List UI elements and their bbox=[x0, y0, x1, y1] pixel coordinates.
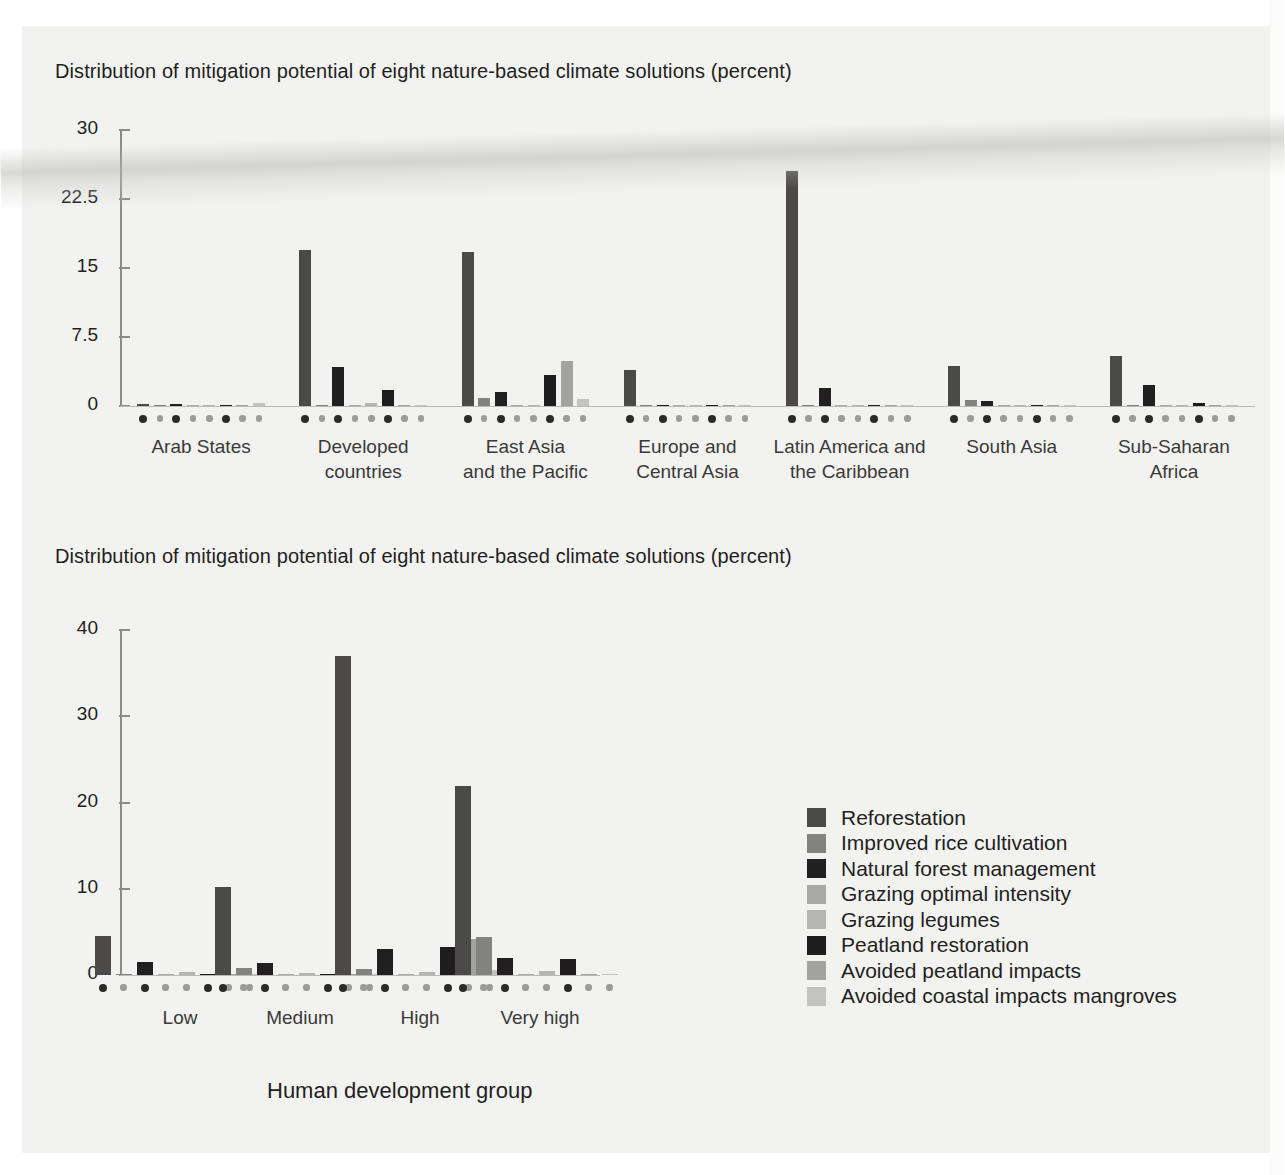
bar-peatland-restoration[interactable] bbox=[868, 405, 880, 406]
bar-reforestation[interactable] bbox=[786, 171, 798, 406]
bar-natural-forest-management[interactable] bbox=[257, 963, 273, 975]
bar-avoided-peatland-impacts[interactable] bbox=[581, 974, 597, 975]
bar-group bbox=[480, 630, 600, 975]
bar-improved-rice-cultivation[interactable] bbox=[476, 937, 492, 975]
bar-grazing-optimal-intensity[interactable] bbox=[278, 974, 294, 975]
bar-reforestation[interactable] bbox=[137, 404, 149, 406]
bar-natural-forest-management[interactable] bbox=[657, 405, 669, 406]
bar-grazing-optimal-intensity[interactable] bbox=[398, 974, 414, 975]
bar-reforestation[interactable] bbox=[462, 252, 474, 406]
bar-natural-forest-management[interactable] bbox=[170, 404, 182, 406]
legend-item-label: Grazing optimal intensity bbox=[841, 882, 1071, 906]
bar-natural-forest-management[interactable] bbox=[377, 949, 393, 975]
chart-by-hdi-group: 010203040LowMediumHighVery high bbox=[120, 630, 600, 975]
legend-item-improved-rice-cultivation[interactable]: Improved rice cultivation bbox=[807, 831, 1177, 857]
bar-improved-rice-cultivation[interactable] bbox=[802, 405, 814, 406]
bar-grazing-legumes[interactable] bbox=[539, 971, 555, 975]
bar-improved-rice-cultivation[interactable] bbox=[1127, 405, 1139, 406]
bar-improved-rice-cultivation[interactable] bbox=[236, 968, 252, 975]
bar-avoided-peatland-impacts[interactable] bbox=[1209, 405, 1221, 406]
bar-grazing-optimal-intensity[interactable] bbox=[511, 405, 523, 406]
bar-avoided-coastal-impacts-mangroves[interactable] bbox=[901, 405, 913, 406]
bar-peatland-restoration[interactable] bbox=[1031, 405, 1043, 406]
bar-grazing-legumes[interactable] bbox=[1014, 405, 1026, 406]
bar-improved-rice-cultivation[interactable] bbox=[478, 398, 490, 406]
series-marker-dot bbox=[246, 984, 253, 991]
bar-natural-forest-management[interactable] bbox=[332, 367, 344, 406]
bar-grazing-legumes[interactable] bbox=[690, 405, 702, 406]
y-axis-tick-label: 40 bbox=[8, 617, 98, 639]
bar-improved-rice-cultivation[interactable] bbox=[640, 405, 652, 406]
bar-avoided-coastal-impacts-mangroves[interactable] bbox=[1064, 405, 1076, 406]
bar-natural-forest-management[interactable] bbox=[819, 388, 831, 406]
bar-grazing-legumes[interactable] bbox=[419, 972, 435, 975]
bar-grazing-legumes[interactable] bbox=[299, 973, 315, 975]
bar-peatland-restoration[interactable] bbox=[1193, 403, 1205, 406]
bar-reforestation[interactable] bbox=[624, 370, 636, 406]
legend-item-peatland-restoration[interactable]: Peatland restoration bbox=[807, 933, 1177, 959]
legend-item-avoided-peatland-impacts[interactable]: Avoided peatland impacts bbox=[807, 958, 1177, 984]
legend-item-reforestation[interactable]: Reforestation bbox=[807, 805, 1177, 831]
series-marker-dot bbox=[788, 415, 796, 423]
bar-avoided-coastal-impacts-mangroves[interactable] bbox=[1226, 405, 1238, 406]
x-axis-baseline bbox=[120, 975, 600, 976]
bar-peatland-restoration[interactable] bbox=[560, 959, 576, 975]
y-axis-tick-label: 0 bbox=[8, 393, 98, 415]
bar-improved-rice-cultivation[interactable] bbox=[116, 974, 132, 975]
bar-avoided-peatland-impacts[interactable] bbox=[561, 361, 573, 406]
bar-reforestation[interactable] bbox=[948, 366, 960, 406]
bar-grazing-optimal-intensity[interactable] bbox=[998, 405, 1010, 406]
bar-avoided-peatland-impacts[interactable] bbox=[236, 405, 248, 406]
legend-item-avoided-coastal-impacts-mangroves[interactable]: Avoided coastal impacts mangroves bbox=[807, 984, 1177, 1010]
bar-peatland-restoration[interactable] bbox=[440, 947, 456, 975]
bar-reforestation[interactable] bbox=[1110, 356, 1122, 406]
bar-grazing-optimal-intensity[interactable] bbox=[518, 974, 534, 975]
bar-grazing-optimal-intensity[interactable] bbox=[187, 405, 199, 406]
bar-avoided-coastal-impacts-mangroves[interactable] bbox=[415, 405, 427, 406]
legend-item-grazing-legumes[interactable]: Grazing legumes bbox=[807, 907, 1177, 933]
bar-avoided-peatland-impacts[interactable] bbox=[723, 405, 735, 406]
bar-peatland-restoration[interactable] bbox=[544, 375, 556, 406]
bar-reforestation[interactable] bbox=[95, 936, 111, 975]
bar-avoided-coastal-impacts-mangroves[interactable] bbox=[739, 405, 751, 406]
bar-grazing-legumes[interactable] bbox=[365, 403, 377, 406]
bar-grazing-optimal-intensity[interactable] bbox=[835, 405, 847, 406]
bar-improved-rice-cultivation[interactable] bbox=[356, 969, 372, 975]
bar-peatland-restoration[interactable] bbox=[706, 405, 718, 406]
bar-peatland-restoration[interactable] bbox=[200, 974, 216, 975]
bar-improved-rice-cultivation[interactable] bbox=[316, 405, 328, 406]
bar-natural-forest-management[interactable] bbox=[981, 401, 993, 406]
bar-peatland-restoration[interactable] bbox=[320, 974, 336, 975]
bar-grazing-legumes[interactable] bbox=[203, 405, 215, 406]
bar-reforestation[interactable] bbox=[335, 656, 351, 975]
bar-reforestation[interactable] bbox=[455, 786, 471, 975]
legend-item-grazing-optimal-intensity[interactable]: Grazing optimal intensity bbox=[807, 882, 1177, 908]
series-marker-dot bbox=[497, 415, 505, 423]
bar-grazing-legumes[interactable] bbox=[1176, 405, 1188, 406]
bar-peatland-restoration[interactable] bbox=[382, 390, 394, 406]
legend-item-natural-forest-management[interactable]: Natural forest management bbox=[807, 856, 1177, 882]
bar-natural-forest-management[interactable] bbox=[1143, 385, 1155, 406]
bar-grazing-legumes[interactable] bbox=[852, 405, 864, 406]
bar-avoided-peatland-impacts[interactable] bbox=[398, 405, 410, 406]
bar-natural-forest-management[interactable] bbox=[137, 962, 153, 975]
bar-reforestation[interactable] bbox=[215, 887, 231, 975]
bar-grazing-optimal-intensity[interactable] bbox=[1160, 405, 1172, 406]
bar-grazing-legumes[interactable] bbox=[179, 972, 195, 975]
bar-avoided-peatland-impacts[interactable] bbox=[885, 405, 897, 406]
bar-grazing-legumes[interactable] bbox=[528, 405, 540, 406]
bar-avoided-coastal-impacts-mangroves[interactable] bbox=[577, 399, 589, 406]
bar-avoided-coastal-impacts-mangroves[interactable] bbox=[253, 403, 265, 406]
bar-grazing-optimal-intensity[interactable] bbox=[349, 405, 361, 406]
bar-grazing-optimal-intensity[interactable] bbox=[673, 405, 685, 406]
bar-natural-forest-management[interactable] bbox=[495, 392, 507, 406]
series-marker-dot bbox=[530, 415, 537, 422]
bar-reforestation[interactable] bbox=[299, 250, 311, 406]
bar-natural-forest-management[interactable] bbox=[497, 958, 513, 975]
bar-peatland-restoration[interactable] bbox=[220, 405, 232, 406]
bar-avoided-peatland-impacts[interactable] bbox=[1047, 405, 1059, 406]
bar-improved-rice-cultivation[interactable] bbox=[965, 400, 977, 406]
bar-improved-rice-cultivation[interactable] bbox=[154, 405, 166, 406]
bar-grazing-optimal-intensity[interactable] bbox=[158, 974, 174, 975]
bar-avoided-coastal-impacts-mangroves[interactable] bbox=[602, 974, 618, 975]
